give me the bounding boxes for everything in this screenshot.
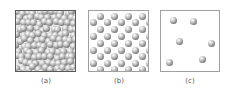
particle-sphere: [38, 69, 45, 72]
panel-c-label: (c): [175, 77, 205, 85]
particle-sphere: [104, 19, 111, 26]
particle-sphere: [132, 19, 139, 26]
particle-sphere: [97, 66, 104, 73]
particle-sphere: [56, 69, 63, 72]
particle-sphere: [125, 66, 132, 73]
particle-sphere: [104, 60, 111, 67]
particle-sphere: [90, 47, 97, 54]
particle-sphere: [90, 19, 97, 26]
particle-sphere: [104, 47, 111, 54]
particle-sphere: [111, 53, 118, 60]
particle-sphere: [47, 66, 54, 72]
particle-sphere: [166, 59, 173, 66]
particle-sphere: [97, 13, 104, 20]
particle-sphere: [146, 47, 150, 54]
panel-b-ordered-particles: [88, 10, 149, 72]
panel-b-label: (b): [104, 77, 134, 85]
particle-sphere: [132, 60, 139, 67]
panel-a-label: (a): [31, 77, 61, 85]
particle-sphere: [118, 47, 125, 54]
particle-sphere: [125, 40, 132, 47]
particle-sphere: [132, 47, 139, 54]
particle-sphere: [111, 26, 118, 33]
particle-sphere: [90, 60, 97, 67]
particle-sphere: [190, 18, 197, 25]
particle-sphere: [33, 71, 40, 72]
particle-sphere: [97, 40, 104, 47]
particle-sphere: [146, 19, 150, 26]
particle-sphere: [146, 60, 150, 67]
particle-sphere: [111, 66, 118, 73]
particle-sphere: [208, 40, 215, 47]
particle-sphere: [170, 17, 177, 24]
particle-sphere: [63, 41, 70, 48]
particle-sphere: [72, 69, 76, 72]
particle-sphere: [118, 19, 125, 26]
particle-sphere: [125, 53, 132, 60]
particle-sphere: [97, 26, 104, 33]
particle-sphere: [139, 53, 146, 60]
particle-sphere: [15, 31, 20, 38]
particle-sphere: [111, 13, 118, 20]
particle-sphere: [139, 26, 146, 33]
particle-sphere: [118, 33, 125, 40]
particle-sphere: [104, 33, 111, 40]
particle-sphere: [125, 26, 132, 33]
particle-sphere: [111, 40, 118, 47]
particle-sphere: [97, 53, 104, 60]
particle-sphere: [75, 21, 76, 28]
particle-sphere: [132, 33, 139, 40]
panel-a-dense-particles: [15, 10, 76, 72]
particle-sphere: [125, 13, 132, 20]
particle-sphere: [139, 40, 146, 47]
particle-sphere: [118, 60, 125, 67]
particle-sphere: [44, 71, 51, 72]
particle-sphere: [90, 33, 97, 40]
panel-c-sparse-particles: [160, 10, 220, 72]
particle-sphere: [176, 38, 183, 45]
particle-sphere: [139, 13, 146, 20]
particle-sphere: [146, 33, 150, 40]
particle-sphere: [139, 66, 146, 73]
particle-sphere: [199, 56, 206, 63]
